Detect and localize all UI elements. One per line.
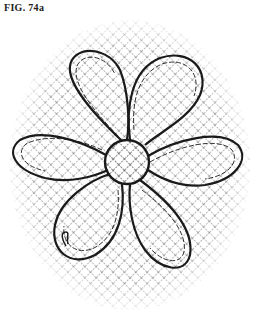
flower-center (105, 140, 149, 184)
flower-drawing (0, 0, 256, 312)
